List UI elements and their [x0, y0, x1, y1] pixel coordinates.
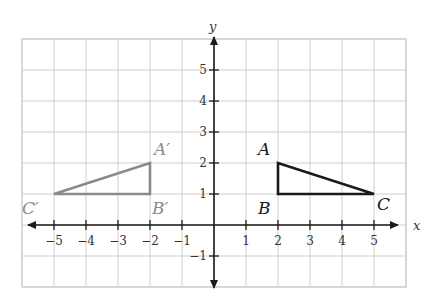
y-tick-label: 4	[199, 94, 207, 108]
y-tick-label: 3	[199, 125, 207, 139]
y-tick-label: −1	[189, 249, 207, 263]
y-axis-label: y	[208, 19, 217, 34]
triangle-abc	[278, 163, 374, 194]
x-tick-label: −3	[109, 234, 127, 248]
y-tick-label: 2	[199, 156, 207, 170]
vertex-label-b-prime: B′	[151, 198, 168, 218]
x-tick-label: −1	[173, 234, 191, 248]
x-axis-label: x	[413, 218, 421, 233]
vertex-label-a: A	[256, 139, 270, 159]
x-tick-label: 4	[338, 234, 346, 248]
x-tick-label: 5	[370, 234, 378, 248]
triangles: ABCA′B′C′	[22, 139, 390, 218]
y-tick-label: 1	[199, 187, 207, 201]
coordinate-plane: −5−4−3−2−11234554321−1 x y ABCA′B′C′	[0, 0, 428, 295]
x-tick-label: 1	[242, 234, 250, 248]
y-tick-label: 5	[199, 63, 207, 77]
vertex-label-c-prime: C′	[22, 198, 39, 218]
x-tick-label: 2	[274, 234, 282, 248]
vertex-label-b: B	[257, 198, 271, 218]
x-tick-label: 3	[306, 234, 314, 248]
triangle-a-primeb-primec-prime	[54, 163, 150, 194]
vertex-label-a-prime: A′	[152, 139, 170, 159]
x-tick-label: −4	[77, 234, 95, 248]
x-tick-label: −2	[141, 234, 159, 248]
x-tick-label: −5	[45, 234, 63, 248]
vertex-label-c: C	[377, 194, 390, 214]
